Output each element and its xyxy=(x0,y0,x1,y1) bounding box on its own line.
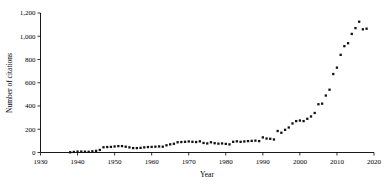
x-axis-tick-label: 1930 xyxy=(34,158,49,166)
data-point xyxy=(365,28,367,30)
y-axis-tick-label: 1,000 xyxy=(20,33,36,41)
data-point xyxy=(288,126,290,128)
x-axis-tick-label: 2020 xyxy=(367,158,382,166)
data-point xyxy=(139,147,141,149)
data-point xyxy=(291,122,293,124)
x-axis-tick-label: 1990 xyxy=(256,158,271,166)
data-point xyxy=(354,27,356,29)
data-point xyxy=(188,140,190,142)
data-point xyxy=(258,140,260,142)
data-point xyxy=(199,140,201,142)
data-point xyxy=(128,146,130,148)
data-point xyxy=(321,103,323,105)
data-point xyxy=(336,66,338,68)
data-point xyxy=(184,141,186,143)
data-point xyxy=(69,151,71,153)
data-point xyxy=(176,141,178,143)
data-point xyxy=(302,120,304,122)
data-point xyxy=(225,143,227,145)
chart-canvas: 02004006008001,0001,200 1930194019501960… xyxy=(0,0,388,186)
data-point xyxy=(358,21,360,23)
x-axis-tick-group: 1930194019501960197019801990200020102020 xyxy=(34,153,382,166)
data-point xyxy=(121,145,123,147)
data-point xyxy=(169,143,171,145)
data-point xyxy=(265,137,267,139)
data-point xyxy=(280,132,282,134)
data-point xyxy=(217,143,219,145)
x-axis-tick-label: 2000 xyxy=(293,158,308,166)
data-point-group xyxy=(69,21,368,154)
data-point xyxy=(202,142,204,144)
citations-scatter-chart-figure: 02004006008001,0001,200 1930194019501960… xyxy=(0,0,388,186)
data-point xyxy=(151,146,153,148)
data-point xyxy=(310,115,312,117)
data-point xyxy=(362,28,364,30)
data-point xyxy=(210,141,212,143)
x-axis-tick-label: 1950 xyxy=(108,158,123,166)
data-point xyxy=(284,129,286,131)
x-axis-tick-label: 1960 xyxy=(145,158,160,166)
data-point xyxy=(232,141,234,143)
x-axis-title: Year xyxy=(200,170,214,179)
data-point xyxy=(328,89,330,91)
data-point xyxy=(99,149,101,151)
data-point xyxy=(277,130,279,132)
data-point xyxy=(325,94,327,96)
x-axis-tick-label: 1940 xyxy=(71,158,86,166)
y-axis-tick-label: 400 xyxy=(25,102,36,110)
y-axis-tick-group: 02004006008001,0001,200 xyxy=(20,9,41,157)
data-point xyxy=(132,147,134,149)
data-point xyxy=(340,54,342,56)
data-point xyxy=(306,118,308,120)
data-point xyxy=(143,146,145,148)
data-point xyxy=(136,147,138,149)
data-point xyxy=(251,140,253,142)
data-point xyxy=(195,141,197,143)
data-point xyxy=(206,142,208,144)
y-axis-tick-label: 1,200 xyxy=(20,9,36,17)
data-point xyxy=(84,151,86,153)
data-point xyxy=(173,143,175,145)
data-point xyxy=(91,150,93,152)
data-point xyxy=(351,33,353,35)
data-point xyxy=(295,120,297,122)
data-point xyxy=(113,145,115,147)
data-point xyxy=(154,146,156,148)
data-point xyxy=(110,146,112,148)
data-point xyxy=(162,146,164,148)
y-axis-tick-label: 800 xyxy=(25,56,36,64)
data-point xyxy=(95,150,97,152)
data-point xyxy=(273,138,275,140)
y-axis-tick-label: 200 xyxy=(25,126,36,134)
data-point xyxy=(243,140,245,142)
data-point xyxy=(158,145,160,147)
data-point xyxy=(314,112,316,114)
data-point xyxy=(269,138,271,140)
data-point xyxy=(343,45,345,47)
data-point xyxy=(191,141,193,143)
data-point xyxy=(228,143,230,145)
data-point xyxy=(254,139,256,141)
data-point xyxy=(247,140,249,142)
data-point xyxy=(117,145,119,147)
data-point xyxy=(80,150,82,152)
data-point xyxy=(262,136,264,138)
data-point xyxy=(88,151,90,153)
data-point xyxy=(332,73,334,75)
data-point xyxy=(165,144,167,146)
data-point xyxy=(180,141,182,143)
data-point xyxy=(221,142,223,144)
data-point xyxy=(125,146,127,148)
data-point xyxy=(299,119,301,121)
data-point xyxy=(106,146,108,148)
data-point xyxy=(102,146,104,148)
data-point xyxy=(73,151,75,153)
data-point xyxy=(317,103,319,105)
data-point xyxy=(214,142,216,144)
data-point xyxy=(76,150,78,152)
x-axis-tick-label: 2010 xyxy=(330,158,345,166)
data-point xyxy=(347,42,349,44)
x-axis-tick-label: 1980 xyxy=(219,158,234,166)
x-axis-tick-label: 1970 xyxy=(182,158,197,166)
y-axis-tick-label: 600 xyxy=(25,79,36,87)
